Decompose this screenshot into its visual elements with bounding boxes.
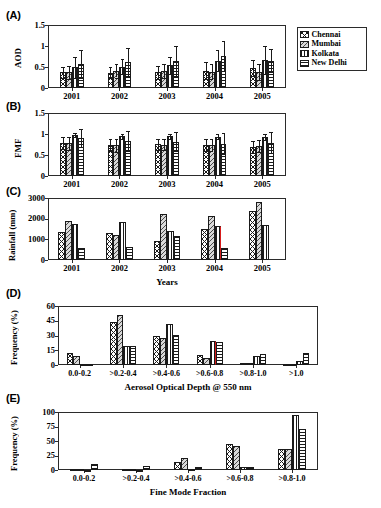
- panel-b-errorbar-newdelhi-1: [128, 131, 129, 150]
- panel-b-errorcap-kolkata-4-0: [263, 134, 267, 135]
- panel-b-errorcap-chennai-2-1: [156, 150, 160, 151]
- panel-b-xtickmark-4: [262, 176, 263, 179]
- panel-b-ytick-0: 0: [12, 172, 45, 181]
- panel-b-errorbar-chennai-0: [63, 137, 64, 149]
- legend-swatch-mumbai-icon: [300, 41, 309, 48]
- panel-a-errorcap-kolkata-1-1: [121, 74, 125, 75]
- panel-e-bar-chennai-1: [122, 469, 129, 471]
- panel-c-bar-kolkata-3: [215, 226, 222, 260]
- panel-c-bar-newdelhi-2: [174, 236, 181, 260]
- panel-d-bar-newdelhi-1: [130, 346, 137, 365]
- panel-b-errorcap-chennai-3-0: [204, 139, 208, 140]
- panel-b-xtickmark-3: [215, 176, 216, 179]
- panel-b-errorcap-kolkata-0-1: [73, 137, 77, 138]
- panel-a-ytick-1: 0.5: [12, 63, 45, 72]
- panel-b-errorcap-mumbai-1-1: [115, 152, 119, 153]
- panel-d-xtick-5: >1.0: [269, 369, 324, 378]
- panel-e-bar-chennai-2: [174, 462, 181, 470]
- panel-b-errorbar-mumbai-3: [212, 139, 213, 152]
- panel-b-errorcap-chennai-0-0: [61, 137, 65, 138]
- panel-c-xtickmark-4: [262, 260, 263, 263]
- panel-c-bar-chennai-1: [106, 233, 113, 260]
- panel-d-ytickmark-2: [55, 336, 58, 337]
- panel-c-bar-mumbai-2: [160, 214, 167, 261]
- panel-a-ytickmark-3: [45, 25, 48, 26]
- panel-a-errorbar-newdelhi-0: [81, 50, 82, 78]
- panel-d-xtickmark-2: [166, 365, 167, 368]
- panel-b-errorcap-chennai-0-1: [61, 149, 65, 150]
- panel-a-errorcap-mumbai-0-0: [67, 66, 71, 67]
- panel-c-xtickmark-3: [215, 260, 216, 263]
- panel-c-x-axis-label: Years: [48, 278, 286, 287]
- panel-e-ytick-4: 100: [22, 408, 55, 417]
- panel-a-errorbar-newdelhi-4: [271, 49, 272, 73]
- legend-item-mumbai: Mumbai: [300, 40, 363, 50]
- panel-b-errorcap-kolkata-4-1: [263, 140, 267, 141]
- panel-e-xtickmark-4: [292, 470, 293, 473]
- panel-b-errorcap-newdelhi-0-1: [79, 147, 83, 148]
- panel-e-bar-newdelhi-3: [247, 467, 254, 470]
- panel-e-bar-kolkata-4: [292, 415, 299, 470]
- panel-a-xtickmark-4: [262, 88, 263, 91]
- panel-a-errorcap-mumbai-4-0: [257, 64, 261, 65]
- panel-c-bar-kolkata-2: [167, 231, 174, 260]
- panel-d-bar-newdelhi-2: [173, 335, 180, 365]
- panel-c-bar-mumbai-3: [208, 216, 215, 260]
- panel-d-xtickmark-3: [210, 365, 211, 368]
- panel-a-ytick-3: 1.5: [12, 21, 45, 30]
- panel-a-xtickmark-1: [119, 88, 120, 91]
- panel-a-errorcap-mumbai-1-0: [115, 64, 119, 65]
- panel-c-ytick-0: 0: [12, 256, 45, 265]
- legend-label-mumbai: Mumbai: [312, 40, 341, 48]
- figure-root: (A) AOD Chennai Mumbai Kolkata New Delhi…: [0, 0, 381, 508]
- panel-e-bar-kolkata-2: [188, 469, 195, 471]
- panel-b-errorbar-chennai-4: [253, 141, 254, 153]
- panel-a-errorcap-chennai-3-1: [204, 79, 208, 80]
- panel-a-errorcap-kolkata-2-1: [168, 74, 172, 75]
- panel-a-errorcap-newdelhi-3-0: [222, 41, 226, 42]
- panel-b-errorcap-newdelhi-3-0: [222, 133, 226, 134]
- panel-c-ytickmark-3: [45, 198, 48, 199]
- panel-a-errorbar-kolkata-0: [75, 57, 76, 78]
- panel-e-xtick-4: >0.8-1.0: [260, 474, 324, 483]
- panel-b-ytickmark-0: [45, 176, 48, 177]
- panel-e-y-axis-label: Frequency (%): [9, 412, 19, 476]
- panel-d-xtickmark-5: [296, 365, 297, 368]
- panel-a-errorcap-chennai-2-0: [156, 66, 160, 67]
- panel-a-ytickmark-1: [45, 67, 48, 68]
- panel-d-bar-newdelhi-3: [216, 342, 223, 365]
- panel-c-xtickmark-1: [119, 260, 120, 263]
- panel-a-errorbar-kolkata-1: [122, 59, 123, 73]
- panel-a-errorcap-kolkata-0-0: [73, 57, 77, 58]
- panel-b-errorbar-mumbai-4: [259, 140, 260, 153]
- panel-a-errorcap-newdelhi-0-0: [79, 50, 83, 51]
- panel-a-errorbar-mumbai-2: [164, 64, 165, 77]
- legend-item-kolkata: Kolkata: [300, 49, 363, 59]
- panel-e-bar-mumbai-0: [77, 469, 84, 471]
- panel-a-errorbar-mumbai-1: [116, 64, 117, 77]
- legend: Chennai Mumbai Kolkata New Delhi: [297, 27, 367, 71]
- panel-c-bar-newdelhi-1: [126, 247, 133, 260]
- panel-a-errorbar-kolkata-2: [170, 57, 171, 75]
- panel-c-ytick-3: 3000: [12, 194, 45, 203]
- panel-a-ytick-0: 0: [12, 84, 45, 93]
- panel-a-errorcap-newdelhi-0-1: [79, 78, 83, 79]
- legend-swatch-kolkata-icon: [300, 50, 309, 57]
- panel-b-errorcap-kolkata-3-0: [216, 134, 220, 135]
- panel-e-ytickmark-1: [55, 456, 58, 457]
- panel-c-bar-chennai-2: [154, 241, 161, 260]
- panel-a-errorcap-kolkata-0-1: [73, 78, 77, 79]
- panel-d-ytickmark-0: [55, 365, 58, 366]
- panel-a-errorcap-chennai-0-1: [61, 78, 65, 79]
- panel-b-errorbar-newdelhi-4: [271, 132, 272, 153]
- panel-d-ytickmark-3: [55, 321, 58, 322]
- panel-d-xtickmark-1: [123, 365, 124, 368]
- panel-b-errorcap-newdelhi-2-1: [174, 151, 178, 152]
- panel-c-bar-newdelhi-0: [78, 248, 85, 260]
- panel-b-errorcap-mumbai-3-0: [210, 139, 214, 140]
- panel-b-errorcap-kolkata-2-0: [168, 134, 172, 135]
- panel-b-errorcap-chennai-1-1: [109, 151, 113, 152]
- panel-e-bar-mumbai-3: [233, 446, 240, 470]
- panel-c-xtickmark-2: [167, 260, 168, 263]
- panel-e-bar-chennai-3: [226, 444, 233, 470]
